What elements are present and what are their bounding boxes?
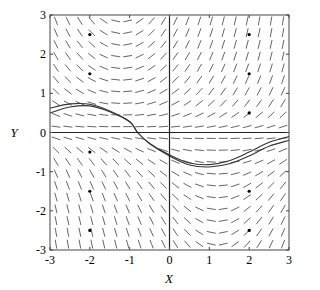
slope-segment [246, 52, 249, 61]
slope-segment [268, 205, 273, 212]
slope-segment [123, 32, 132, 34]
slope-segment [221, 76, 225, 84]
slope-segment [87, 114, 96, 116]
slope-segment [196, 230, 204, 235]
slope-segment [123, 91, 132, 92]
slope-segment [184, 101, 191, 106]
slope-segment [149, 205, 153, 213]
slope-segment [172, 76, 178, 82]
slope-segment [79, 240, 81, 249]
slope-segment [207, 126, 216, 128]
slope-segment [111, 44, 120, 46]
slope-segment [184, 218, 191, 224]
slope-segment [111, 20, 120, 22]
slope-segment [124, 159, 131, 165]
slope-segment [161, 205, 166, 212]
slope-segment [281, 217, 285, 225]
slope-segment [161, 41, 167, 48]
slope-segment [245, 87, 249, 95]
slope-segment [243, 126, 252, 128]
slope-segment [123, 67, 132, 68]
slope-segment [231, 126, 240, 128]
slope-segment [268, 112, 275, 118]
slope-segment [173, 229, 178, 236]
slope-segment [99, 78, 108, 81]
slope-segment [135, 114, 144, 115]
slope-segment [209, 64, 213, 72]
slope-segment [111, 79, 120, 80]
slope-segment [172, 171, 180, 176]
slope-segment [270, 28, 272, 37]
slope-segment [219, 243, 228, 245]
slope-segment [66, 41, 71, 49]
slope-segment [138, 216, 141, 224]
slope-segment [79, 205, 81, 214]
slope-segment [244, 241, 250, 248]
slope-segment [100, 54, 108, 58]
slope-segment [76, 137, 85, 139]
slope-segment [231, 195, 239, 198]
slope-segment [111, 91, 120, 92]
slope-segment [53, 76, 59, 83]
slope-segment [149, 182, 155, 189]
slope-segment [243, 183, 251, 187]
slope-segment [232, 112, 239, 117]
slope-segment [219, 208, 228, 209]
slope-segment [234, 64, 237, 72]
slope-segment [100, 66, 108, 69]
slope-segment [126, 228, 129, 237]
slope-segment [54, 29, 58, 37]
slope-segment [137, 170, 143, 177]
slope-segment [52, 101, 59, 106]
slope-segment [65, 64, 71, 71]
slope-segment [258, 40, 260, 49]
slope-segment [111, 67, 120, 68]
slope-segment [160, 160, 168, 164]
slope-segment [171, 126, 180, 127]
slope-segment [234, 28, 236, 37]
x-tick-label: -1 [125, 253, 135, 267]
slope-segment [147, 102, 156, 105]
slope-segment [268, 182, 274, 188]
slope-segment [172, 89, 179, 94]
slope-segment [257, 99, 262, 106]
slope-segment [137, 193, 141, 201]
slope-segment [161, 29, 166, 36]
slope-segment [267, 138, 276, 139]
slope-segment [90, 193, 93, 201]
slope-segment [79, 228, 81, 237]
slope-segment [268, 194, 274, 201]
slope-segment [195, 207, 203, 211]
slope-segment [161, 53, 167, 60]
slope-segment [197, 64, 201, 72]
x-axis-label: X [164, 271, 174, 286]
slope-segment [258, 16, 260, 25]
slope-segment [208, 100, 215, 106]
slope-segment [281, 228, 285, 236]
slope-segment [64, 137, 73, 140]
slope-segment [124, 148, 132, 152]
slope-segment [148, 29, 154, 35]
slope-segment [184, 88, 191, 94]
slope-segment [78, 170, 82, 178]
slope-segment [126, 205, 129, 213]
slope-segment [246, 16, 248, 25]
slope-segment [89, 158, 95, 165]
slope-segment [126, 216, 129, 224]
slope-segment [65, 158, 70, 166]
slope-segment [183, 113, 191, 116]
slope-segment [66, 170, 70, 178]
slope-segment [123, 138, 132, 140]
slope-segment [76, 89, 84, 94]
slope-segment [102, 193, 105, 201]
y-tick-label: -1 [36, 165, 46, 179]
slope-segment [281, 205, 285, 213]
slope-segment [135, 78, 144, 81]
marked-point [248, 33, 251, 36]
slope-segment [209, 88, 215, 95]
slope-segment [280, 171, 287, 177]
slope-segment [219, 220, 228, 222]
tick-labels: -3-2-10123-3-2-10123 [36, 8, 292, 267]
slope-segment [222, 17, 224, 26]
slope-segment [138, 240, 141, 249]
